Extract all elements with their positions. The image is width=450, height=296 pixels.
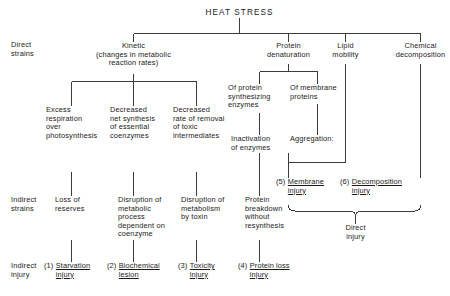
injury-number-5: (5) xyxy=(276,178,288,187)
node-chemical-decomposition: Chemical decomposition xyxy=(379,42,450,59)
node-disruption-metabolic-process: Disruption of metabolic process dependen… xyxy=(118,196,182,239)
node-lipid-mobility: Lipid mobility xyxy=(318,42,374,59)
bracket-direct-injury xyxy=(289,205,421,217)
injury-number-1: (1) xyxy=(44,262,56,271)
injury-starvation-injury: (1) Starvation injury xyxy=(44,262,90,280)
injury-number-2: (2) xyxy=(107,262,119,271)
node-excess-respiration: Excess respiration over photosynthesis xyxy=(46,106,112,140)
injury-membrane-injury: (5) Membrane injury xyxy=(276,178,324,196)
row-label-indirect-strains: Indirect strains xyxy=(11,196,36,213)
node-aggregation: Aggregation: xyxy=(290,135,352,144)
injury-number-6: (6) xyxy=(340,178,352,187)
injury-label-4: Protein loss injury xyxy=(250,262,290,280)
injury-label-6: Decomposition injury xyxy=(352,178,402,196)
row-label-indirect-injury: Indirect injury xyxy=(11,262,36,279)
node-direct-injury: Direct injury xyxy=(326,224,386,241)
injury-label-5: Membrane injury xyxy=(288,178,324,196)
injury-toxicity-injury: (3) Toxicity injury xyxy=(178,262,215,280)
node-loss-of-reserves: Loss of reserves xyxy=(55,196,113,213)
injury-decomposition-injury: (6) Decomposition injury xyxy=(340,178,402,196)
node-disruption-metabolism-toxin: Disruption of metabolism by toxin xyxy=(181,196,245,222)
injury-label-3: Toxicity injury xyxy=(190,262,215,280)
injury-label-1: Starvation injury xyxy=(56,262,90,280)
injury-number-3: (3) xyxy=(178,262,190,271)
node-kinetic: Kinetic (changes in metabolic reaction r… xyxy=(54,42,214,68)
injury-number-4: (4) xyxy=(238,262,250,271)
injury-biochemical-lesion: (2) Biochemical lesion xyxy=(107,262,160,280)
injury-label-2: Biochemical lesion xyxy=(119,262,160,280)
node-of-membrane-proteins: Of membrane proteins xyxy=(290,84,350,101)
node-decreased-net-synthesis: Decreased net synthesis of essential coe… xyxy=(110,106,180,140)
node-inactivation-of-enzymes: Inactivation of enzymes xyxy=(231,135,289,152)
node-protein-breakdown: Protein breakdown without resynthesis xyxy=(245,196,307,230)
row-label-direct-strains: Direct strains xyxy=(11,41,34,58)
diagram-title: HEAT STRESS xyxy=(205,9,273,18)
injury-protein-loss-injury: (4) Protein loss injury xyxy=(238,262,290,280)
